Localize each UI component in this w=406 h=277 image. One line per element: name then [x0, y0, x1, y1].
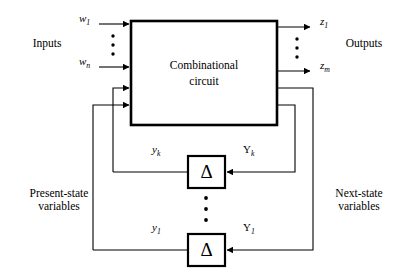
signal-label-wn: wn [79, 55, 90, 68]
signal-label-Yk: Yk [243, 143, 254, 156]
present-state-line1: Present-state [13, 187, 105, 200]
signal-label-yk: yk [152, 143, 160, 156]
combinational-circuit-caption: Combinational circuit [131, 58, 277, 89]
block-caption-line1: Combinational [131, 58, 277, 74]
feedback-path-yk [113, 88, 129, 172]
inputs-label: Inputs [18, 37, 76, 50]
signal-label-z1: z1 [320, 15, 328, 28]
signal-label-Y1: Y1 [243, 221, 255, 234]
present-state-label: Present-state variables [13, 187, 105, 213]
delay-ellipsis-dots [204, 196, 208, 222]
output-ellipsis-dots [295, 37, 298, 58]
feedback-path-y1 [93, 105, 129, 250]
delta-glyph-1: Δ [188, 240, 225, 259]
delta-glyph-k: Δ [188, 162, 225, 181]
figure-canvas: Combinational circuit Inputs Outputs Pre… [0, 0, 406, 277]
signal-label-w1: w1 [79, 12, 90, 25]
present-state-line2: variables [13, 200, 105, 213]
next-state-line2: variables [318, 200, 400, 213]
input-ellipsis-dots [111, 34, 114, 55]
outputs-label: Outputs [333, 37, 395, 50]
next-state-label: Next-state variables [318, 187, 400, 213]
signal-label-zm: zm [320, 59, 330, 72]
next-state-line1: Next-state [318, 187, 400, 200]
signal-label-y1: y1 [152, 221, 161, 234]
block-caption-line2: circuit [131, 74, 277, 90]
